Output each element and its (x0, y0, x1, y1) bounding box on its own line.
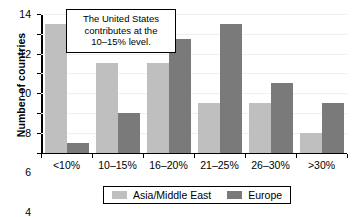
y-axis-tick: 14 (37, 14, 41, 15)
x-axis-tick (245, 154, 246, 158)
y-axis-tick-label: 14 (19, 8, 31, 20)
y-axis-tick: 2 (37, 133, 41, 134)
x-axis-tick (296, 154, 297, 158)
legend-item: Europe (227, 189, 282, 201)
bar-group (296, 14, 347, 153)
bar (198, 103, 220, 152)
bar (147, 63, 169, 152)
y-axis-tick-label: 12 (19, 48, 31, 60)
y-axis-tick: 8 (37, 73, 41, 74)
bar-group (245, 14, 296, 153)
bar (118, 113, 140, 153)
y-axis-tick: 10 (37, 54, 41, 55)
bar (169, 39, 191, 153)
annotation-callout: The United States contributes at the 10–… (66, 9, 176, 53)
x-axis-label: 21–25% (194, 159, 245, 171)
bar (300, 133, 322, 153)
bar (322, 103, 344, 152)
chart-legend: Asia/Middle EastEurope (103, 186, 291, 204)
bar (67, 143, 89, 153)
y-axis-tick: 12 (37, 34, 41, 35)
bar (220, 24, 242, 153)
x-axis-label: 26–30% (245, 159, 296, 171)
y-axis-tick-label: 8 (25, 127, 31, 139)
bar (96, 63, 118, 152)
legend-swatch (227, 191, 242, 199)
legend-swatch (112, 191, 127, 199)
bar (45, 24, 67, 153)
callout-line-1: The United States (71, 13, 171, 25)
x-axis-label: 10–15% (92, 159, 143, 171)
x-axis-label: 16–20% (143, 159, 194, 171)
legend-item: Asia/Middle East (112, 189, 211, 201)
y-axis-tick-label: 6 (25, 166, 31, 178)
callout-line-3: 10–15% level. (71, 36, 171, 48)
bar-group (194, 14, 245, 153)
x-axis-tick (194, 154, 195, 158)
y-axis-tick: 4 (37, 113, 41, 114)
x-axis-tick (143, 154, 144, 158)
y-axis-tick: 6 (37, 93, 41, 94)
x-axis-tick (41, 154, 42, 158)
bar-chart: Number of countries 02468101214 <10%10–1… (0, 0, 357, 217)
y-axis-tick-label: 10 (19, 87, 31, 99)
bar (249, 103, 271, 152)
x-axis-tick (92, 154, 93, 158)
x-axis-labels: <10%10–15%16–20%21–25%26–30%>30% (41, 159, 347, 171)
x-axis-label: <10% (41, 159, 92, 171)
x-axis-tick (347, 154, 348, 158)
legend-label: Asia/Middle East (133, 189, 211, 201)
y-axis-tick-label: 4 (25, 206, 31, 217)
x-axis-label: >30% (296, 159, 347, 171)
bar (271, 83, 293, 152)
callout-line-2: contributes at the (71, 25, 171, 37)
legend-label: Europe (248, 189, 282, 201)
